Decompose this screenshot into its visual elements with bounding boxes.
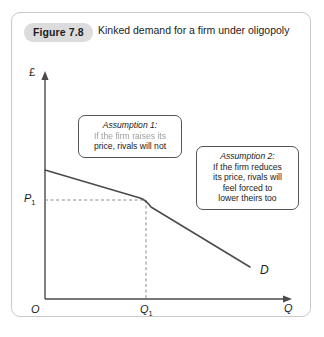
assumption-1-title: Assumption 1: — [84, 120, 176, 130]
assumption-2-callout: Assumption 2: If the firm reduces its pr… — [196, 146, 299, 210]
chart-plot-area: £ P1 Q1 O Q D Assumption 1: If the firm … — [12, 59, 312, 318]
figure-number-badge: Figure 7.8 — [24, 23, 93, 42]
origin-label: O — [31, 303, 40, 315]
price-label-subscript: 1 — [31, 198, 35, 207]
x-axis-label: Q — [284, 302, 293, 314]
quantity-label-letter: Q — [140, 303, 149, 315]
assumption-1-line-2: price, rivals will not — [84, 141, 176, 151]
assumption-2-line-4: lower theirs too — [202, 193, 293, 203]
figure-header: Figure 7.8 Kinked demand for a firm unde… — [12, 13, 310, 59]
assumption-2-line-2: its price, rivals will — [202, 172, 293, 182]
assumption-1-line-1: If the firm raises its — [84, 131, 176, 141]
quantity-axis-tick-label: Q1 — [140, 303, 153, 318]
quantity-label-subscript: 1 — [149, 309, 153, 318]
assumption-2-line-1: If the firm reduces — [202, 162, 293, 172]
y-axis-label: £ — [29, 66, 35, 78]
demand-curve-label: D — [260, 263, 269, 277]
assumption-2-title: Assumption 2: — [202, 151, 293, 161]
assumption-2-line-3: feel forced to — [202, 183, 293, 193]
figure-card: Figure 7.8 Kinked demand for a firm unde… — [11, 12, 311, 317]
price-axis-tick-label: P1 — [24, 192, 36, 207]
assumption-1-callout: Assumption 1: If the firm raises its pri… — [78, 115, 182, 158]
figure-caption: Kinked demand for a firm under oligopoly — [98, 23, 298, 37]
y-axis-arrowhead — [41, 71, 48, 80]
